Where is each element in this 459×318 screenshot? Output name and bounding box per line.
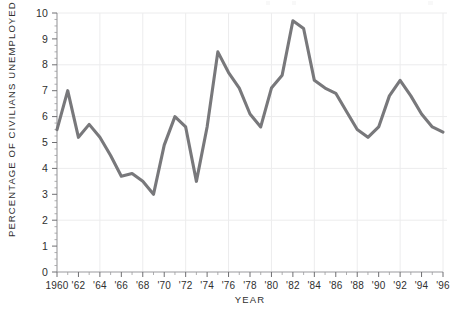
- x-tick-label: 1960: [45, 280, 68, 291]
- x-tick-label: '96: [436, 280, 450, 291]
- x-tick-label: '74: [200, 280, 214, 291]
- chart-background: [0, 0, 459, 318]
- chart-canvas: 012345678910 1960'62'64'66'68'70'72'74'7…: [0, 0, 459, 318]
- unemployment-line-chart: 012345678910 1960'62'64'66'68'70'72'74'7…: [0, 0, 459, 318]
- x-tick-label: '62: [72, 280, 86, 291]
- x-tick-label: '78: [243, 280, 257, 291]
- y-tick-label: 0: [42, 266, 48, 278]
- x-tick-label: '72: [179, 280, 193, 291]
- x-tick-label: '76: [222, 280, 236, 291]
- x-tick-label: '88: [350, 280, 364, 291]
- x-tick-label: '80: [265, 280, 279, 291]
- x-tick-label: '82: [286, 280, 300, 291]
- x-tick-label: '64: [93, 280, 107, 291]
- y-tick-label: 7: [42, 84, 48, 96]
- y-tick-label: 1: [42, 240, 48, 252]
- y-tick-label: 5: [42, 136, 48, 148]
- x-tick-label: '70: [157, 280, 171, 291]
- x-tick-label: '66: [115, 280, 129, 291]
- y-tick-label: 2: [42, 214, 48, 226]
- y-tick-label: 10: [36, 7, 48, 19]
- y-tick-label: 9: [42, 33, 48, 45]
- x-tick-label: '92: [393, 280, 407, 291]
- y-tick-label: 3: [42, 188, 48, 200]
- x-tick-label: '86: [329, 280, 343, 291]
- x-tick-label: '84: [308, 280, 322, 291]
- x-tick-label: '94: [415, 280, 429, 291]
- y-tick-label: 4: [42, 162, 48, 174]
- y-axis-title: PERCENTAGE OF CIVILIANS UNEMPLOYED: [6, 1, 17, 237]
- y-tick-label: 6: [42, 110, 48, 122]
- x-axis-title: YEAR: [235, 294, 265, 305]
- x-tick-label: '68: [136, 280, 150, 291]
- x-tick-label: '90: [372, 280, 386, 291]
- y-tick-label: 8: [42, 58, 48, 70]
